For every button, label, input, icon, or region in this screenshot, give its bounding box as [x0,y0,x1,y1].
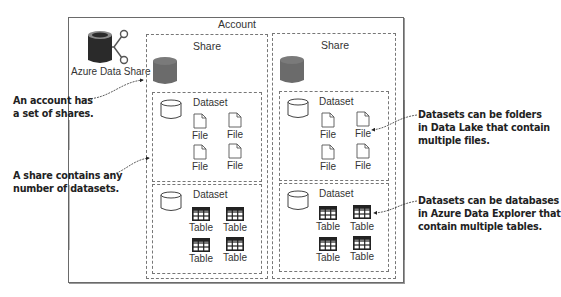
callout-datasets-folders: Datasets can be folders in Data Lake tha… [418,108,550,147]
callout-line: Datasets can be databases [418,194,561,207]
callout-line: in Data Lake that contain [418,121,550,134]
callout-line: a set of shares. [13,107,93,120]
callout-line: contain multiple tables. [418,220,561,233]
callout-line: Datasets can be folders [418,108,550,121]
callout-account-shares: An account has a set of shares. [13,94,93,120]
callout-share-datasets: A share contains any number of datasets. [13,169,122,195]
callout-datasets-databases: Datasets can be databases in Azure Data … [418,194,561,233]
callout-line: in Azure Data Explorer that [418,207,561,220]
callout-line: multiple files. [418,134,550,147]
callout-line: An account has [13,94,93,107]
callout-line: number of datasets. [13,182,122,195]
callout-line: A share contains any [13,169,122,182]
